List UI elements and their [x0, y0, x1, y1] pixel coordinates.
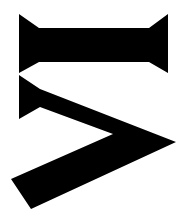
chevron-shape: [11, 75, 176, 209]
glyph-canvas: [0, 0, 183, 222]
serif-bar-shape: [19, 14, 168, 73]
glyph-icon: [0, 0, 183, 222]
